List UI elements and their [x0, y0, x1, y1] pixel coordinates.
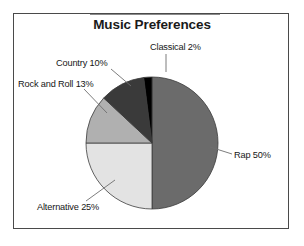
leader-line-country	[111, 69, 131, 86]
pie-slice-rap	[152, 77, 218, 209]
pie-slice-alternative	[86, 143, 152, 209]
pie-label-country: Country 10%	[56, 58, 107, 68]
pie-label-rock-and-roll: Rock and Roll 13%	[18, 79, 94, 89]
pie-label-classical: Classical 2%	[150, 42, 201, 52]
pie-label-alternative: Alternative 25%	[37, 202, 99, 212]
pie-label-rap: Rap 50%	[234, 150, 271, 160]
pie-chart-figure: Music Preferences Classical 2% Country 1…	[0, 0, 304, 246]
